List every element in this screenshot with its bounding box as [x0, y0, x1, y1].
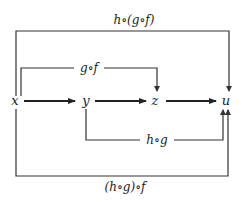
- node-u: u: [222, 93, 230, 108]
- node-z: z: [151, 93, 159, 108]
- label-hg-compose-f: (h∘g)∘f: [105, 180, 149, 194]
- label-h-compose-g: h∘g: [146, 133, 168, 147]
- edge-h-compose-gf: [16, 31, 229, 96]
- label-g-compose-f: g∘f: [80, 61, 101, 75]
- node-y: y: [81, 93, 90, 108]
- edge-hg-compose-f: [16, 109, 228, 176]
- composition-diagram: h∘(g∘f) g∘f x y z u h∘g (h∘g)∘f: [0, 0, 245, 203]
- node-x: x: [11, 93, 19, 108]
- label-h-compose-gf: h∘(g∘f): [114, 13, 155, 27]
